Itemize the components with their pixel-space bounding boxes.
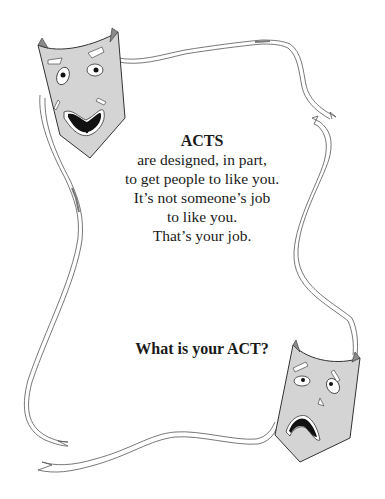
message-line-3: It’s not someone’s job	[102, 188, 302, 207]
message-line-4: to like you.	[102, 207, 302, 226]
poster-question: What is your ACT?	[102, 340, 302, 358]
poster-message: ACTS are designed, in part, to get peopl…	[102, 131, 302, 245]
illustration	[0, 0, 385, 499]
message-line-5: That’s your job.	[102, 226, 302, 245]
poster-title: ACTS	[102, 131, 302, 150]
message-line-1: are designed, in part,	[102, 150, 302, 169]
tragedy-mask	[275, 340, 360, 462]
message-line-2: to get people to like you.	[102, 169, 302, 188]
